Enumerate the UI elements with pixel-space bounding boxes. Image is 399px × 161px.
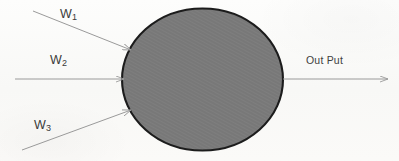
- input-label-w2-text: W: [50, 53, 62, 67]
- input-label-w1: W1: [60, 8, 77, 21]
- input-label-w3: W3: [34, 119, 51, 132]
- input-label-w3-subscript: 3: [46, 123, 51, 133]
- neuron-diagram-svg: [0, 0, 399, 161]
- input-label-w3-text: W: [34, 118, 46, 132]
- input-arrow-w1: [33, 11, 131, 50]
- neuron-body-ellipse: [122, 9, 283, 151]
- input-label-w2: W2: [50, 54, 67, 67]
- input-label-w1-text: W: [60, 7, 72, 21]
- input-label-w1-subscript: 1: [72, 12, 77, 22]
- input-label-w2-subscript: 2: [62, 58, 67, 68]
- output-label: Out Put: [306, 55, 343, 66]
- diagram-canvas: W1 W2 W3 Out Put: [0, 0, 399, 161]
